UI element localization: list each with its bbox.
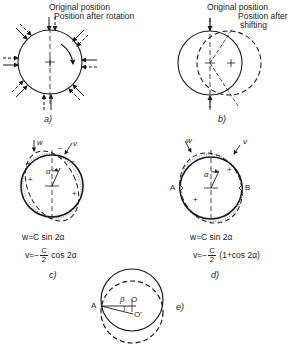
panel-e-Oprime-label: O' [134,311,142,319]
panel-d-plus-upper: + [227,166,232,174]
panel-d-drawing [169,141,254,233]
panel-c-w-equation: w=C sin 2α [22,233,64,242]
panel-c-alpha-label: α [46,168,51,176]
panel-c-v-label: v [73,140,77,148]
panel-c-v-prefix: v=− [25,250,39,260]
panel-c-plus-right: + [72,190,77,198]
panel-b-drawing [178,18,261,110]
panel-d-plus-lower: + [193,196,198,204]
panel-c-v-fraction: C2 [40,247,48,264]
panel-e-beta-label: β [120,296,125,304]
support-B-icon [239,185,242,191]
panel-d-v-equation: v=−C2 (1+cos 2α) [193,247,260,264]
panel-c-v-suffix: cos 2α [51,250,76,260]
panel-d-B-label: B [245,184,250,192]
diagram-canvas [0,0,300,349]
panel-c-drawing [13,140,92,230]
panel-a-after-label: Position after rotation [54,12,134,21]
panel-b-after-label-line2: shifting [240,21,267,30]
panel-c-minus-right: − [70,158,75,166]
panel-a-drawing [3,17,97,110]
panel-d-w-equation: w=C sin 2α [190,233,232,242]
panel-e-drawing [101,269,163,343]
panel-d-v-fraction: C2 [208,247,216,264]
panel-d-caption: d) [211,271,219,280]
panel-c-caption: c) [49,271,57,280]
panel-c-minus-top: − [58,145,63,153]
panel-c-plus-left: + [28,176,33,184]
panel-d-alpha-label: α [204,171,209,179]
support-A-icon [180,185,183,191]
panel-a-caption: a) [44,115,52,124]
panel-d-v-prefix: v=− [193,250,207,260]
panel-e-A-label: A [91,302,96,310]
panel-b-caption: b) [218,115,226,124]
panel-d-v-label: v [243,138,247,146]
panel-e-caption: e) [176,303,184,312]
panel-c-v-equation: v=−C2 cos 2α [25,247,77,264]
panel-c-minus-left: − [26,160,31,168]
panel-d-A-label: A [170,184,175,192]
panel-c-w-label: w [37,139,43,147]
panel-d-v-suffix: (1+cos 2α) [219,250,260,260]
rotation-arrow-icon [61,44,73,64]
panel-d-w-label: w [186,137,192,145]
panel-e-O-label: O [131,296,137,304]
